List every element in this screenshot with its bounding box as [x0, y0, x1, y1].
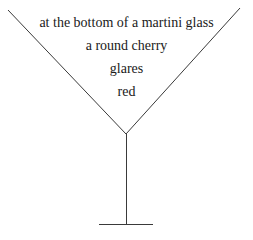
glass-bowl-right-edge	[126, 8, 240, 134]
poem-canvas: at the bottom of a martini glass a round…	[0, 0, 253, 240]
glass-bowl-left-edge	[8, 10, 126, 134]
martini-glass-drawing	[0, 0, 253, 240]
